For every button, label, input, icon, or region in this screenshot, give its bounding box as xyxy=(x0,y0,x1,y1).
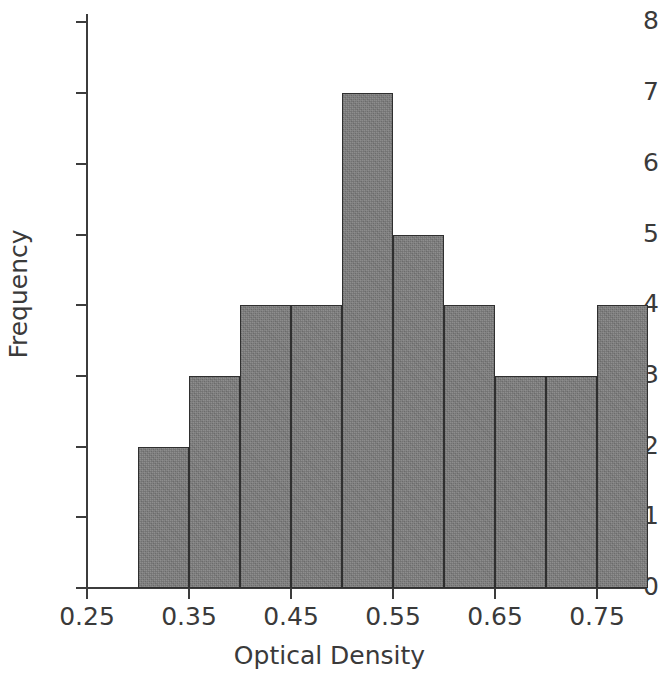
y-axis-title-wrapper: Frequency xyxy=(4,144,44,444)
histogram-bar xyxy=(546,376,597,588)
histogram-figure: 012345678 0.250.350.450.550.650.75 Optic… xyxy=(0,0,659,677)
y-axis-title: Frequency xyxy=(4,144,33,444)
plot-area: 012345678 0.250.350.450.550.650.75 Optic… xyxy=(0,0,659,677)
histogram-bar xyxy=(444,305,495,588)
histogram-bar xyxy=(138,447,189,588)
histogram-bars xyxy=(0,0,659,677)
histogram-bar xyxy=(189,376,240,588)
histogram-bar xyxy=(597,305,648,588)
histogram-bar xyxy=(240,305,291,588)
x-axis-title: Optical Density xyxy=(0,641,659,670)
histogram-bar xyxy=(495,376,546,588)
histogram-bar xyxy=(291,305,342,588)
histogram-bar xyxy=(342,93,393,588)
histogram-bar xyxy=(393,235,444,589)
